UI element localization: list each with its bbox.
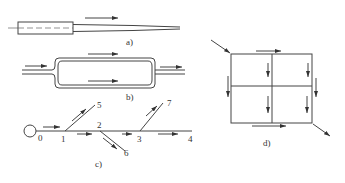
flow-arrow-icon (146, 106, 157, 116)
node-label-5: 5 (97, 100, 102, 110)
caption-a: a) (126, 37, 133, 47)
medium-pipe-top (73, 25, 133, 26)
panel-c: 0 1 2 3 4 5 6 7 c) (24, 98, 193, 169)
panel-d: d) (211, 40, 330, 148)
inflow-arrow-icon (211, 40, 230, 53)
node-label-1: 1 (61, 134, 66, 144)
node-label-0: 0 (38, 133, 43, 143)
caption-c: c) (95, 159, 102, 169)
pipe-network-figure: a) b) 0 1 2 3 4 5 6 7 c) (0, 0, 345, 183)
node-label-3: 3 (137, 134, 142, 144)
medium-pipe-bottom (73, 31, 133, 32)
node-label-4: 4 (188, 134, 193, 144)
panel-b: b) (22, 54, 185, 102)
source-node-icon (24, 125, 36, 137)
node-label-6: 6 (124, 148, 129, 158)
panel-a: a) (8, 18, 180, 47)
node-label-2: 2 (97, 120, 102, 130)
branch-1-5 (65, 105, 95, 131)
caption-b: b) (126, 92, 134, 102)
caption-d: d) (263, 138, 271, 148)
outflow-arrow-icon (313, 124, 330, 136)
node-label-7: 7 (167, 98, 172, 108)
branch-2-6 (100, 131, 125, 151)
loop-outer (52, 58, 155, 88)
branch-3-7 (140, 103, 163, 131)
